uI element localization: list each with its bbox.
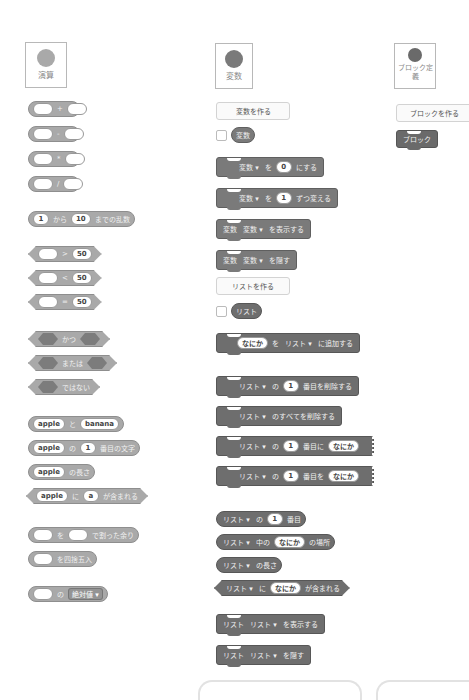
variable-checkbox[interactable] bbox=[216, 130, 227, 141]
input-value[interactable]: 0 bbox=[276, 161, 292, 173]
boolean-slot[interactable] bbox=[80, 333, 100, 345]
math-function-dropdown[interactable]: 絶対値 ▾ bbox=[68, 588, 103, 600]
block-length-of-list[interactable]: リスト ▾ の長さ bbox=[216, 557, 282, 573]
boolean-slot[interactable] bbox=[38, 333, 58, 345]
block-random[interactable]: 1 から 10 までの乱数 bbox=[28, 211, 135, 227]
block-custom[interactable]: ブロック bbox=[396, 130, 438, 148]
input-string-b[interactable]: banana bbox=[80, 418, 119, 430]
input-slot[interactable] bbox=[33, 529, 53, 541]
input-index[interactable]: 1 bbox=[283, 470, 299, 482]
list-dropdown[interactable]: リスト ▾ bbox=[237, 411, 268, 421]
block-delete-all-of-list[interactable]: リスト ▾ のすべてを削除する bbox=[216, 406, 342, 426]
block-list-reporter[interactable]: リスト bbox=[231, 303, 262, 319]
block-change-variable[interactable]: 変数 ▾ を 1 ずつ変える bbox=[216, 188, 338, 208]
block-item-of-list[interactable]: リスト ▾ の 1 番目 bbox=[216, 511, 306, 527]
variable-dropdown[interactable]: 変数 ▾ bbox=[237, 162, 261, 172]
input-string[interactable]: apple bbox=[33, 442, 65, 454]
list-dropdown[interactable]: リスト ▾ bbox=[224, 583, 255, 593]
input-value[interactable]: 50 bbox=[72, 248, 92, 260]
block-round[interactable]: を四捨五入 bbox=[28, 551, 97, 567]
input-index[interactable]: 1 bbox=[267, 513, 283, 525]
block-equals[interactable]: = 50 bbox=[28, 294, 102, 310]
block-length-of[interactable]: apple の長さ bbox=[28, 464, 95, 480]
block-mod[interactable]: を で割った余り bbox=[28, 527, 139, 543]
make-block-button[interactable]: ブロックを作る bbox=[396, 104, 469, 122]
list-dropdown[interactable]: リスト ▾ bbox=[237, 471, 268, 481]
block-not[interactable]: ではない bbox=[28, 379, 100, 395]
block-add[interactable]: + bbox=[28, 101, 80, 117]
input-value[interactable]: 1 bbox=[276, 192, 292, 204]
input-string[interactable]: apple bbox=[33, 466, 65, 478]
input-slot[interactable] bbox=[33, 103, 53, 115]
input-slot[interactable] bbox=[65, 153, 85, 165]
input-slot[interactable] bbox=[68, 529, 88, 541]
input-index[interactable]: 1 bbox=[80, 442, 96, 454]
list-checkbox[interactable] bbox=[216, 306, 227, 317]
boolean-slot[interactable] bbox=[38, 357, 58, 369]
list-dropdown[interactable]: リスト ▾ bbox=[221, 514, 252, 524]
boolean-slot[interactable] bbox=[87, 357, 107, 369]
input-string[interactable]: apple bbox=[36, 490, 68, 502]
input-item[interactable]: なにか bbox=[237, 337, 268, 349]
list-dropdown[interactable]: リスト ▾ bbox=[248, 619, 279, 629]
block-less-than[interactable]: < 50 bbox=[28, 270, 102, 286]
input-string-a[interactable]: apple bbox=[33, 418, 65, 430]
block-item-num-of-list[interactable]: リスト ▾ 中の なにか の場所 bbox=[216, 534, 335, 550]
block-show-list[interactable]: リスト リスト ▾ を表示する bbox=[216, 614, 325, 634]
block-add-to-list[interactable]: なにか を リスト ▾ に追加する bbox=[216, 333, 360, 353]
boolean-slot[interactable] bbox=[38, 381, 58, 393]
input-value[interactable]: 50 bbox=[72, 272, 92, 284]
variable-dropdown[interactable]: 変数 ▾ bbox=[241, 224, 265, 234]
block-divide[interactable]: / bbox=[28, 176, 80, 192]
input-index[interactable]: 1 bbox=[283, 440, 299, 452]
list-dropdown[interactable]: リスト ▾ bbox=[248, 650, 279, 660]
input-slot[interactable] bbox=[38, 248, 58, 260]
input-slot[interactable] bbox=[63, 178, 83, 190]
block-multiply[interactable]: * bbox=[28, 151, 80, 167]
input-item[interactable]: なにか bbox=[270, 582, 301, 594]
block-join[interactable]: apple と banana bbox=[28, 416, 124, 432]
variable-dropdown[interactable]: 変数 ▾ bbox=[237, 193, 261, 203]
list-dropdown[interactable]: リスト ▾ bbox=[283, 338, 314, 348]
make-variable-button[interactable]: 変数を作る bbox=[216, 102, 290, 120]
input-letter[interactable]: a bbox=[83, 490, 99, 502]
input-value[interactable]: 50 bbox=[72, 296, 92, 308]
block-letter-of[interactable]: apple の 1 番目の文字 bbox=[28, 440, 140, 456]
list-dropdown[interactable]: リスト ▾ bbox=[237, 381, 268, 391]
input-slot[interactable] bbox=[64, 128, 84, 140]
block-subtract[interactable]: - bbox=[28, 126, 80, 142]
input-to[interactable]: 10 bbox=[71, 213, 91, 225]
block-variable-reporter[interactable]: 変数 bbox=[231, 127, 255, 143]
block-contains[interactable]: apple に a が含まれる bbox=[26, 488, 148, 504]
list-dropdown[interactable]: リスト ▾ bbox=[237, 441, 268, 451]
block-math-function[interactable]: の 絶対値 ▾ bbox=[28, 586, 108, 602]
input-slot[interactable] bbox=[33, 553, 53, 565]
category-operators[interactable]: 演算 bbox=[25, 42, 67, 88]
block-hide-list[interactable]: リスト リスト ▾ を隠す bbox=[216, 645, 311, 665]
block-and[interactable]: かつ bbox=[28, 331, 110, 347]
input-item[interactable]: なにか bbox=[274, 536, 305, 548]
make-list-button[interactable]: リストを作る bbox=[216, 277, 290, 295]
block-delete-of-list[interactable]: リスト ▾ の 1 番目を削除する bbox=[216, 376, 359, 396]
input-item[interactable]: なにか bbox=[328, 440, 359, 452]
category-my-blocks[interactable]: ブロック定 義 bbox=[394, 43, 436, 89]
input-item[interactable]: なにか bbox=[328, 470, 359, 482]
category-variables[interactable]: 変数 bbox=[215, 43, 253, 89]
input-slot[interactable] bbox=[67, 103, 87, 115]
input-slot[interactable] bbox=[38, 272, 58, 284]
block-set-variable[interactable]: 変数 ▾ を 0 にする bbox=[216, 157, 324, 177]
input-slot[interactable] bbox=[33, 128, 53, 140]
list-dropdown[interactable]: リスト ▾ bbox=[221, 537, 252, 547]
block-hide-variable[interactable]: 変数 変数 ▾ を隠す bbox=[216, 250, 297, 270]
input-slot[interactable] bbox=[33, 588, 53, 600]
block-or[interactable]: または bbox=[28, 355, 117, 371]
input-from[interactable]: 1 bbox=[33, 213, 49, 225]
input-index[interactable]: 1 bbox=[283, 380, 299, 392]
block-greater-than[interactable]: > 50 bbox=[28, 246, 102, 262]
block-list-contains[interactable]: リスト ▾ に なにか が含まれる bbox=[214, 580, 350, 596]
list-dropdown[interactable]: リスト ▾ bbox=[221, 560, 252, 570]
variable-dropdown[interactable]: 変数 ▾ bbox=[241, 255, 265, 265]
block-replace-item-of-list[interactable]: リスト ▾ の 1 番目を なにか bbox=[216, 466, 374, 486]
block-show-variable[interactable]: 変数 変数 ▾ を表示する bbox=[216, 219, 311, 239]
input-slot[interactable] bbox=[33, 178, 53, 190]
